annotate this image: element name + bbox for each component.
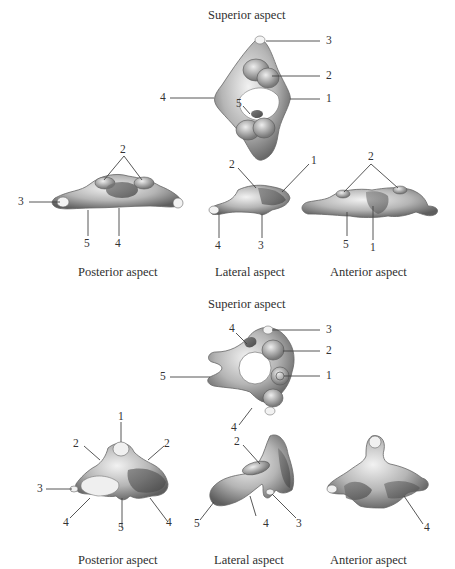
bottom-superior-caption: Superior aspect — [208, 297, 285, 312]
bottom-posterior-caption: Posterior aspect — [78, 553, 158, 568]
bottom-lateral-vertebra — [210, 435, 294, 506]
top-lateral-label-3: 3 — [258, 240, 264, 252]
top-lateral-vertebra — [209, 185, 290, 215]
top-posterior-vertebra — [52, 174, 183, 208]
bottom-superior-label-4-bottom: 4 — [231, 422, 237, 434]
top-superior-label-3: 3 — [326, 35, 332, 47]
top-posterior-caption: Posterior aspect — [78, 265, 158, 280]
bottom-superior-label-5: 5 — [160, 371, 166, 383]
bottom-lateral-label-5: 5 — [194, 518, 200, 530]
bottom-anterior-caption: Anterior aspect — [330, 553, 407, 568]
vertebra-illustrations — [0, 0, 455, 569]
top-lateral-caption: Lateral aspect — [215, 265, 285, 280]
top-anterior-label-5: 5 — [343, 239, 349, 251]
bottom-posterior-label-1: 1 — [118, 411, 124, 423]
top-superior-caption: Superior aspect — [208, 8, 285, 23]
top-superior-vertebra — [215, 36, 291, 160]
bottom-superior-vertebra — [208, 326, 294, 415]
top-anterior-label-2: 2 — [368, 151, 374, 163]
bottom-lateral-label-4: 4 — [263, 518, 269, 530]
top-anterior-label-1: 1 — [370, 242, 376, 254]
bottom-posterior-label-2-left: 2 — [73, 438, 79, 450]
bottom-posterior-label-3: 3 — [37, 483, 43, 495]
bottom-anterior-label-4: 4 — [424, 522, 430, 534]
top-anterior-vertebra — [302, 186, 438, 218]
bottom-posterior-label-4-left: 4 — [63, 517, 69, 529]
top-lateral-label-4: 4 — [215, 240, 221, 252]
bottom-lateral-label-3: 3 — [296, 518, 302, 530]
bottom-superior-label-2: 2 — [326, 345, 332, 357]
bottom-posterior-label-5: 5 — [118, 522, 124, 534]
top-posterior-label-3: 3 — [18, 196, 24, 208]
bottom-posterior-label-4-right: 4 — [166, 517, 172, 529]
top-posterior-label-4: 4 — [115, 238, 121, 250]
top-superior-label-5: 5 — [236, 98, 242, 110]
top-lateral-label-1: 1 — [311, 155, 317, 167]
bottom-anterior-leaders — [404, 496, 423, 524]
top-posterior-label-5: 5 — [84, 238, 90, 250]
bottom-superior-label-4-top: 4 — [229, 323, 235, 335]
top-lateral-label-2: 2 — [229, 159, 235, 171]
bottom-posterior-label-2-right: 2 — [164, 438, 170, 450]
top-superior-label-4: 4 — [160, 92, 166, 104]
bottom-anterior-vertebra — [327, 436, 428, 508]
bottom-posterior-vertebra — [70, 442, 168, 500]
bottom-lateral-caption: Lateral aspect — [214, 553, 284, 568]
bottom-lateral-label-2: 2 — [234, 436, 240, 448]
top-superior-label-1: 1 — [326, 93, 332, 105]
bottom-superior-label-3: 3 — [326, 324, 332, 336]
bottom-superior-label-1: 1 — [326, 370, 332, 382]
top-anterior-caption: Anterior aspect — [330, 265, 407, 280]
top-posterior-label-2: 2 — [120, 144, 126, 156]
top-superior-label-2: 2 — [326, 70, 332, 82]
